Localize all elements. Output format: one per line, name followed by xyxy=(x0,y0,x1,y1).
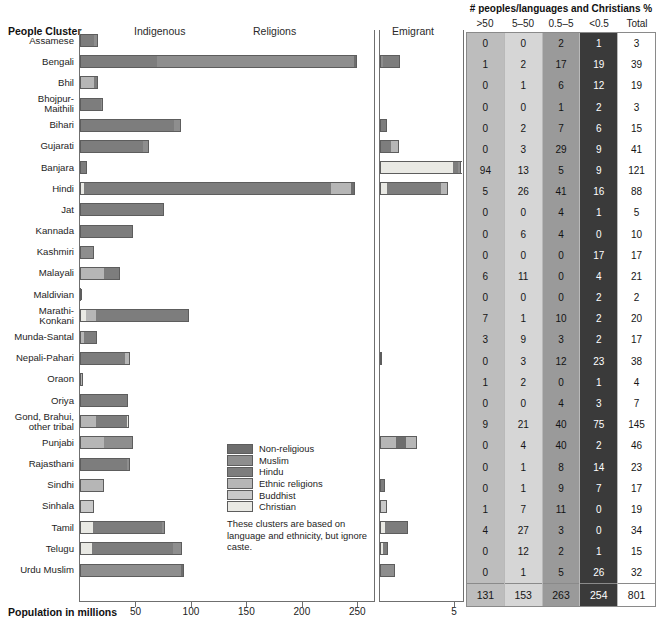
table-cell: 4 xyxy=(580,266,618,287)
bar-segment xyxy=(162,522,165,533)
table-total-cell: 254 xyxy=(580,584,618,607)
bar-segment xyxy=(174,120,181,131)
table-cell: 10 xyxy=(542,308,580,329)
legend-label: Christian xyxy=(259,501,296,512)
table-cell: 14 xyxy=(580,456,618,477)
bar-segment xyxy=(380,501,387,512)
bar-segment xyxy=(80,543,92,554)
bar-segment xyxy=(127,416,129,427)
axis-tick-label: 50 xyxy=(130,606,141,617)
stacked-bar xyxy=(80,203,164,216)
stacked-bar xyxy=(80,182,355,195)
table-cell: 3 xyxy=(542,520,580,541)
infographic-root: People Cluster Indigenous Religions Emig… xyxy=(0,0,657,634)
table-row: 12171939 xyxy=(467,54,656,75)
table-cell: 1 xyxy=(580,372,618,393)
stacked-bar xyxy=(80,436,133,449)
table-cell: 11 xyxy=(542,499,580,520)
table-total-cell: 801 xyxy=(618,584,656,607)
bar-segment xyxy=(96,310,189,321)
table-row: 019717 xyxy=(467,478,656,499)
population-bar-panel xyxy=(79,30,375,602)
stacked-bar xyxy=(380,436,417,449)
row-label: Rajasthani xyxy=(0,459,74,469)
table-cell: 17 xyxy=(542,54,580,75)
stacked-bar xyxy=(380,564,395,577)
bar-segment xyxy=(387,183,440,194)
bar-segment xyxy=(157,56,354,67)
table-cell: 1 xyxy=(504,308,542,329)
row-label: Telugu xyxy=(0,544,74,554)
stacked-bar xyxy=(80,288,81,301)
bar-segment xyxy=(143,141,149,152)
stacked-bar xyxy=(380,119,387,132)
table-cell: 10 xyxy=(618,224,656,245)
table-cell: 4 xyxy=(467,520,505,541)
row-label: Sinhala xyxy=(0,501,74,511)
row-label: Oriya xyxy=(0,396,74,406)
table-cell: 0 xyxy=(504,287,542,308)
table-cell: 3 xyxy=(618,33,656,55)
bar-segment xyxy=(127,459,130,470)
table-cell: 12 xyxy=(580,75,618,96)
table-cell: 26 xyxy=(580,562,618,584)
bar-segment xyxy=(80,204,164,215)
table-row: 064010 xyxy=(467,224,656,245)
legend-item: Non-religious xyxy=(227,443,323,455)
table-row: 0152632 xyxy=(467,562,656,584)
bar-segment xyxy=(80,141,143,152)
bar-segment xyxy=(380,141,391,152)
table-cell: 34 xyxy=(618,520,656,541)
stacked-bar xyxy=(380,500,387,513)
table-column-header: >50 xyxy=(466,18,504,29)
table-cell: 17 xyxy=(618,329,656,350)
row-label: Urdu Muslim xyxy=(0,565,74,575)
table-cell: 38 xyxy=(618,351,656,372)
table-cell: 3 xyxy=(618,97,656,118)
bar-segment xyxy=(80,565,181,576)
axis-title: Population in millions xyxy=(8,606,117,618)
table-cell: 0 xyxy=(467,562,505,584)
bar-segment xyxy=(181,565,184,576)
bar-segment xyxy=(101,99,103,110)
bar-segment xyxy=(86,310,96,321)
axis-tick-label: 250 xyxy=(349,606,366,617)
table-cell: 0 xyxy=(542,287,580,308)
christians-table: 0021312171939016121900123027615032994194… xyxy=(466,32,656,607)
row-label: Hindi xyxy=(0,184,74,194)
stacked-bar xyxy=(80,564,184,577)
table-cell: 0 xyxy=(542,245,580,266)
table-total-cell: 131 xyxy=(467,584,505,607)
table-cell: 0 xyxy=(467,435,505,456)
bar-segment xyxy=(380,162,453,173)
table-cell: 7 xyxy=(618,393,656,414)
table-cell: 2 xyxy=(580,329,618,350)
stacked-bar xyxy=(80,34,98,47)
bar-segment xyxy=(80,522,93,533)
legend-swatch xyxy=(227,467,253,478)
table-cell: 1 xyxy=(504,478,542,499)
stacked-bar xyxy=(380,182,448,195)
table-cell: 29 xyxy=(542,139,580,160)
stacked-bar xyxy=(80,458,130,471)
bar-segment xyxy=(383,56,400,67)
table-cell: 9 xyxy=(542,478,580,499)
table-cell: 2 xyxy=(504,118,542,139)
table-cell: 0 xyxy=(504,97,542,118)
table-cell: 0 xyxy=(467,118,505,139)
bar-segment xyxy=(80,374,83,385)
table-cell: 0 xyxy=(467,478,505,499)
table-total-cell: 263 xyxy=(542,584,580,607)
bar-segment xyxy=(94,35,97,46)
table-cell: 0 xyxy=(504,393,542,414)
stacked-bar xyxy=(80,309,189,322)
row-label: Assamese xyxy=(0,36,74,46)
bar-segment xyxy=(80,289,82,300)
table-row: 00437 xyxy=(467,393,656,414)
table-cell: 0 xyxy=(580,520,618,541)
legend-swatch xyxy=(227,478,253,489)
table-cell: 3 xyxy=(467,329,505,350)
table-column-header: <0.5 xyxy=(580,18,618,29)
table-cell: 23 xyxy=(580,351,618,372)
table-cell: 3 xyxy=(504,351,542,372)
